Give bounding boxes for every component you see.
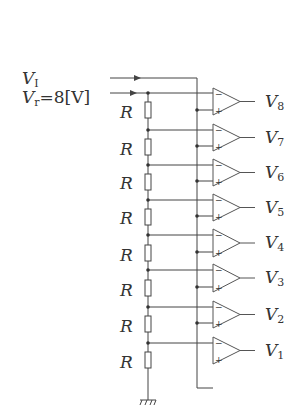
resistor-4	[145, 209, 151, 225]
resistor-7	[145, 316, 151, 332]
svg-text:+: +	[215, 212, 223, 222]
resistor-6	[145, 280, 151, 296]
resistor-2	[145, 139, 151, 155]
output-label-v6: V6	[265, 162, 284, 184]
vi-arrow-icon	[134, 75, 141, 81]
svg-text:+: +	[215, 355, 223, 365]
ground-icon	[140, 400, 156, 405]
output-label-v4: V4	[265, 232, 284, 254]
resistor-8	[145, 352, 151, 368]
svg-text:+: +	[215, 142, 223, 152]
svg-text:−: −	[215, 338, 223, 348]
svg-text:+: +	[215, 106, 223, 116]
svg-text:−: −	[215, 160, 223, 170]
svg-text:R: R	[119, 245, 133, 265]
vr-label: Vr=8[V]	[22, 87, 90, 109]
output-label-v5: V5	[265, 197, 284, 219]
output-label-v2: V2	[265, 304, 284, 326]
svg-text:−: −	[215, 125, 223, 135]
svg-text:−: −	[215, 195, 223, 205]
comparator-ladder-diagram: −+ −+ −+ −+ −+ −+ −+ −+ VI Vr=8[V] R R R…	[0, 0, 307, 412]
svg-text:R: R	[119, 139, 133, 159]
svg-text:−: −	[215, 302, 223, 312]
svg-text:+: +	[215, 319, 223, 329]
vi-input-wire	[110, 78, 213, 388]
svg-text:R: R	[119, 316, 133, 336]
opamp-signs: −+ −+ −+ −+ −+ −+ −+ −+	[215, 89, 223, 365]
svg-text:R: R	[119, 352, 133, 372]
svg-text:−: −	[215, 89, 223, 99]
svg-text:−: −	[215, 265, 223, 275]
output-label-v8: V8	[265, 91, 284, 113]
resistor-labels: R R R R R R R R	[119, 102, 133, 372]
svg-text:R: R	[119, 208, 133, 228]
output-label-v3: V3	[265, 267, 284, 289]
plus-input-wires	[197, 110, 213, 323]
vr-arrow-icon	[130, 90, 137, 96]
svg-text:R: R	[119, 173, 133, 193]
svg-text:+: +	[215, 248, 223, 258]
svg-text:R: R	[119, 102, 133, 122]
svg-text:−: −	[215, 230, 223, 240]
output-label-v1: V1	[265, 340, 284, 362]
svg-text:+: +	[215, 177, 223, 187]
svg-text:R: R	[119, 280, 133, 300]
svg-text:+: +	[215, 283, 223, 293]
tap-wires	[148, 130, 213, 343]
output-label-v7: V7	[265, 127, 284, 149]
resistor-3	[145, 174, 151, 190]
resistor-1	[145, 102, 151, 118]
resistor-5	[145, 245, 151, 261]
